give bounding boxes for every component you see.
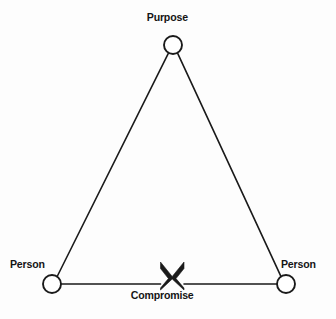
node-label-person-right: Person [281,259,316,271]
node-person-right-circle[interactable] [277,275,295,293]
marker-label-compromise: Compromise [131,290,194,302]
node-label-purpose: Purpose [147,12,188,24]
triangle-diagram-graphic [0,0,336,319]
node-person-left-circle[interactable] [43,275,61,293]
compromise-x-icon [161,262,185,290]
node-label-person-left: Person [10,259,45,271]
edge-purpose-to-person-left [57,54,168,276]
node-purpose-circle[interactable] [164,36,182,54]
edge-purpose-to-person-right [178,54,281,277]
diagram-canvas: Purpose Person Person Compromise [0,0,336,319]
